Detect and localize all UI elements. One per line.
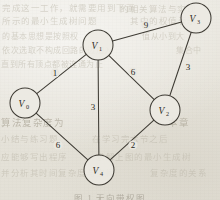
edge-weight-label: 3 [91, 102, 96, 112]
node-label-subscript: 2 [166, 110, 169, 117]
weighted-graph-diagram: 1963362 V0V1V2V3V4 [0, 0, 220, 200]
graph-node-v3: V3 [181, 3, 211, 33]
node-label-subscript: 0 [26, 103, 29, 110]
graph-edge [37, 54, 87, 93]
graph-edge [36, 113, 88, 160]
edge-weight-label: 9 [144, 20, 149, 30]
edge-weight-label: 6 [131, 67, 136, 77]
figure-page: 完成这一工作，就需要用到下面的相关算法与实现所示的最小生成树问题其中的权值表示的… [0, 0, 220, 200]
node-label-subscript: 4 [100, 170, 103, 177]
graph-nodes-group: V0V1V2V3V4 [10, 3, 211, 185]
graph-edge-weights-group: 1963362 [50, 20, 192, 150]
graph-node-v4: V4 [84, 155, 114, 185]
edge-weight-label: 2 [131, 140, 136, 150]
node-label-subscript: 1 [99, 45, 102, 52]
node-circle [150, 95, 180, 125]
graph-node-v0: V0 [10, 88, 40, 118]
graph-edge [98, 60, 99, 155]
edge-weight-label: 6 [56, 140, 61, 150]
graph-edge [109, 55, 154, 99]
node-circle [10, 88, 40, 118]
node-circle [84, 155, 114, 185]
graph-node-v1: V1 [83, 30, 113, 60]
edge-weight-label: 3 [186, 62, 191, 72]
node-circle [181, 3, 211, 33]
node-label-subscript: 3 [197, 18, 200, 25]
node-circle [83, 30, 113, 60]
edge-weight-label: 1 [53, 68, 58, 78]
figure-caption: 图 1 无向带权图 [0, 191, 220, 200]
graph-node-v2: V2 [150, 95, 180, 125]
